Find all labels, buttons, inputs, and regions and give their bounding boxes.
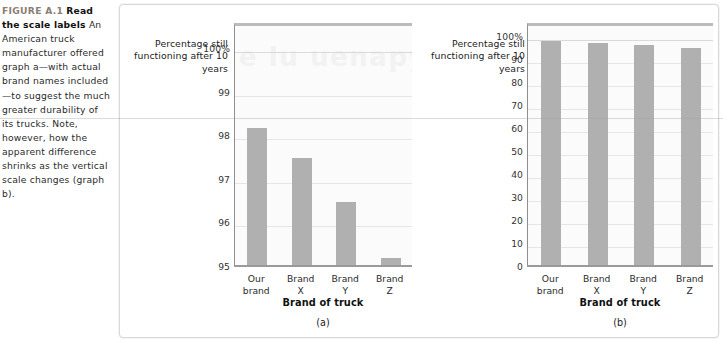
figure-caption-body: An American truck manufacturer offered g…: [2, 19, 110, 199]
x-axis-tick-label: Our brand: [234, 273, 279, 296]
y-axis-tick-label: 20: [487, 215, 523, 226]
y-axis-tick-label: 70: [487, 100, 523, 111]
figure-frame: Percentage still functioning after 10 ye…: [119, 4, 719, 338]
y-axis-tick-label: 30: [487, 192, 523, 203]
bar: [292, 158, 312, 267]
y-axis-tick-label: 90: [487, 54, 523, 65]
chart-a-plot-inner: e lu uenapys: [235, 26, 412, 267]
chart-b-baseline: [527, 265, 714, 267]
chart-panel-a: Percentage still functioning after 10 ye…: [120, 5, 420, 339]
y-axis-tick-label: 40: [487, 169, 523, 180]
x-axis-tick-label: Brand Z: [667, 273, 714, 296]
chart-a-baseline: [234, 265, 413, 267]
chart-a-panel-label: (a): [234, 317, 412, 328]
bar: [634, 45, 654, 267]
x-axis-tick-label: Brand Z: [368, 273, 413, 296]
y-axis-tick-label: 100%: [487, 31, 523, 42]
figure-caption: FIGURE A.1 Read the scale labels An Amer…: [2, 4, 110, 201]
figure-number: FIGURE A.1: [2, 5, 63, 16]
y-axis-tick-label: 60: [487, 123, 523, 134]
y-axis-tick-label: 100%: [194, 43, 230, 54]
x-axis-tick-label: Our brand: [527, 273, 574, 296]
bar: [681, 48, 701, 267]
bar: [541, 41, 561, 267]
y-axis-tick-label: 0: [487, 261, 523, 272]
chart-b-plot-inner: [528, 26, 713, 267]
y-axis-tick-label: 95: [194, 261, 230, 272]
x-axis-tick-label: Brand X: [279, 273, 324, 296]
chart-a-plot-area: e lu uenapys: [234, 23, 412, 267]
chart-panel-b: Percentage still functioning after 10 ye…: [420, 5, 720, 339]
chart-a-x-axis-title: Brand of truck: [234, 297, 412, 308]
y-axis-tick-label: 50: [487, 146, 523, 157]
x-axis-tick-label: Brand Y: [620, 273, 667, 296]
gridline: [235, 96, 412, 97]
bar: [588, 43, 608, 267]
y-axis-tick-label: 98: [194, 130, 230, 141]
bar: [336, 202, 356, 267]
y-axis-tick-label: 96: [194, 217, 230, 228]
watermark-text: e lu uenapys: [239, 42, 412, 72]
y-axis-tick-label: 10: [487, 238, 523, 249]
x-axis-tick-label: Brand Y: [323, 273, 368, 296]
gridline: [235, 52, 412, 53]
y-axis-tick-label: 80: [487, 77, 523, 88]
chart-b-plot-area: [527, 23, 713, 267]
y-axis-tick-label: 97: [194, 174, 230, 185]
y-axis-tick-label: 99: [194, 87, 230, 98]
chart-b-x-axis-title: Brand of truck: [527, 297, 713, 308]
chart-b-panel-label: (b): [527, 317, 713, 328]
x-axis-tick-label: Brand X: [574, 273, 621, 296]
bar: [247, 128, 267, 267]
